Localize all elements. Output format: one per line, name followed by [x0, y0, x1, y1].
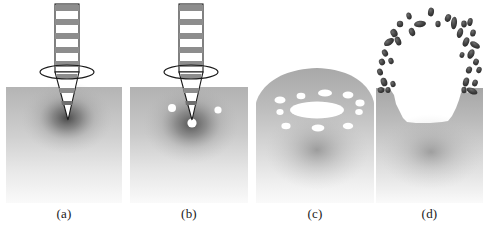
ejecta-droplet [397, 21, 403, 27]
panel-c-caption: (c) [256, 206, 374, 222]
ejecta-droplet [406, 12, 413, 20]
ejecta-droplet [475, 66, 482, 74]
figure-laser-ablation-sequence: (a) [0, 0, 483, 236]
ejecta-droplet [461, 87, 466, 93]
panel-d-stage [376, 0, 483, 205]
panel-a-illustration [6, 0, 122, 205]
ejecta-droplet [435, 21, 440, 27]
panel-d-caption: (d) [376, 206, 483, 222]
panel-b-caption: (b) [130, 206, 248, 222]
ejecta-droplet [408, 27, 417, 37]
ejecta-droplet [466, 48, 476, 60]
ejecta-droplet [414, 20, 427, 28]
ejecta-droplet [378, 58, 386, 67]
central-cavity [290, 102, 344, 119]
panel-a-stage [6, 0, 122, 205]
void-bubble [168, 104, 176, 112]
ejecta-droplet [470, 29, 477, 37]
ejecta-spray-d [376, 7, 483, 96]
void-bubble [355, 100, 364, 107]
ejecta-droplet [469, 40, 481, 51]
panel-b: (b) [130, 0, 248, 236]
ejecta-droplet [383, 36, 396, 48]
ejecta-droplet [471, 79, 478, 87]
ejecta-droplet [387, 57, 394, 65]
ejecta-droplet [385, 87, 390, 93]
panel-c-illustration [256, 0, 374, 205]
ejecta-droplet [462, 77, 470, 87]
void-bubble [281, 123, 290, 129]
ejecta-droplet [376, 68, 384, 77]
void-bubble [312, 125, 325, 132]
panel-a: (a) [6, 0, 122, 236]
void-bubble [297, 93, 306, 99]
ejecta-droplet [380, 77, 389, 87]
panel-c-stage [256, 0, 374, 205]
panel-d: (d) [376, 0, 483, 236]
ejecta-droplet [461, 21, 467, 28]
ejecta-droplet [390, 80, 397, 87]
panel-c: (c) [256, 0, 374, 236]
ejecta-droplet [444, 13, 452, 23]
ejecta-droplet [381, 48, 390, 57]
ejecta-droplet [465, 66, 473, 75]
ejecta-droplet [393, 36, 402, 47]
ejecta-droplet [427, 7, 434, 17]
panel-d-illustration [376, 0, 483, 205]
ejecta-droplet [472, 58, 480, 66]
substrate-dome-c [256, 68, 374, 203]
void-bubble [343, 123, 353, 129]
ejecta-droplet [459, 51, 465, 58]
ejecta-droplet [450, 16, 457, 29]
panel-b-stage [130, 0, 248, 205]
void-bubble [355, 109, 363, 115]
ejecta-droplet [461, 36, 470, 47]
void-bubble [318, 89, 332, 96]
substrate-crater-d [376, 88, 483, 203]
ejecta-droplet [456, 27, 465, 39]
void-bubble [276, 109, 283, 115]
void-bubble [343, 92, 354, 99]
void-bubble [214, 106, 221, 113]
panel-b-illustration [130, 0, 248, 205]
ejecta-droplet [467, 17, 474, 26]
void-bubble [275, 96, 286, 103]
panel-a-caption: (a) [6, 206, 122, 222]
